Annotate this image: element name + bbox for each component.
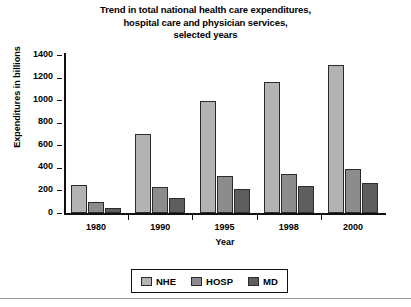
legend-item-md[interactable]: MD xyxy=(248,276,278,287)
x-axis-line xyxy=(64,213,386,215)
y-tick-label: 800 xyxy=(38,116,53,126)
y-tick-label: 1200 xyxy=(33,71,53,81)
bar-nhe-1995 xyxy=(200,101,216,213)
bar-md-1995 xyxy=(234,189,250,213)
bar-md-1990 xyxy=(169,198,185,213)
y-tick-mark xyxy=(57,78,62,79)
bar-nhe-1980 xyxy=(71,185,87,213)
y-axis-label: Expenditures in billions xyxy=(12,22,22,172)
y-tick-label: 1000 xyxy=(33,94,53,104)
bar-hosp-2000 xyxy=(345,169,361,213)
chart-title-line-1: Trend in total national health care expe… xyxy=(0,4,411,17)
page-divider xyxy=(0,298,411,299)
y-tick-mark xyxy=(57,145,62,146)
bar-hosp-1998 xyxy=(281,174,297,214)
y-tick-label: 1400 xyxy=(33,49,53,59)
x-tick-mark xyxy=(321,215,322,220)
bar-nhe-2000 xyxy=(328,65,344,213)
y-tick-label: 0 xyxy=(48,207,53,217)
x-tick-label: 1980 xyxy=(86,222,106,232)
x-tick-mark xyxy=(128,215,129,220)
legend-label: MD xyxy=(263,276,278,287)
bar-md-1998 xyxy=(298,186,314,213)
chart-title-line-2: hospital care and physician services, xyxy=(0,17,411,30)
bar-md-1980 xyxy=(105,208,121,213)
chart-title-line-3: selected years xyxy=(0,29,411,42)
plot-area xyxy=(64,55,385,213)
y-tick-label: 600 xyxy=(38,139,53,149)
legend-item-hosp[interactable]: HOSP xyxy=(191,276,233,287)
legend-label: HOSP xyxy=(206,276,233,287)
bar-nhe-1990 xyxy=(135,134,151,213)
chart-legend: NHEHOSPMD xyxy=(131,269,288,293)
bar-nhe-1998 xyxy=(264,82,280,213)
chart-title: Trend in total national health care expe… xyxy=(0,4,411,42)
bar-hosp-1995 xyxy=(217,176,233,213)
y-tick-mark xyxy=(57,100,62,101)
x-tick-label: 1995 xyxy=(214,222,234,232)
legend-swatch-md xyxy=(248,277,259,286)
legend-swatch-nhe xyxy=(141,277,152,286)
bar-hosp-1990 xyxy=(152,187,168,213)
x-tick-mark xyxy=(257,215,258,220)
bar-md-2000 xyxy=(362,183,378,213)
y-tick-mark xyxy=(57,55,62,56)
y-tick-label: 200 xyxy=(38,184,53,194)
x-tick-label: 2000 xyxy=(343,222,363,232)
y-tick-mark xyxy=(57,190,62,191)
legend-swatch-hosp xyxy=(191,277,202,286)
x-axis-label: Year xyxy=(64,237,386,247)
legend-label: NHE xyxy=(156,276,176,287)
legend-item-nhe[interactable]: NHE xyxy=(141,276,176,287)
x-tick-mark xyxy=(192,215,193,220)
y-tick-label: 400 xyxy=(38,161,53,171)
y-tick-mark xyxy=(57,168,62,169)
y-tick-mark xyxy=(57,123,62,124)
bar-hosp-1980 xyxy=(88,202,104,213)
x-tick-label: 1990 xyxy=(150,222,170,232)
x-tick-label: 1998 xyxy=(279,222,299,232)
y-tick-mark xyxy=(57,213,62,214)
